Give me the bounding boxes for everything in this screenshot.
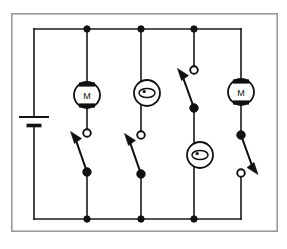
junction-bottom-branch-1	[84, 216, 90, 222]
indicator-lamp-2-lens-dot	[196, 152, 199, 155]
switch-4-terminal[interactable]	[237, 169, 245, 177]
branch-3-switch-lamp	[178, 29, 214, 219]
switch-4-pivot[interactable]	[237, 131, 245, 139]
indicator-lamp-1-lens-dot	[143, 90, 146, 93]
junction-bottom-branch-3	[191, 216, 197, 222]
switch-4-lever[interactable]	[241, 135, 253, 167]
switch-3[interactable]	[178, 66, 199, 112]
switch-2-pivot[interactable]	[137, 170, 145, 178]
switch-2[interactable]	[125, 131, 146, 178]
circuit-diagram: M	[0, 0, 287, 249]
indicator-lamp-2-lens	[192, 150, 208, 159]
switch-3-terminal[interactable]	[190, 66, 198, 74]
branch-4-motor-switch: M	[228, 29, 258, 219]
schematic-canvas: M	[0, 0, 287, 249]
indicator-lamp-2	[187, 142, 213, 168]
junction-top-branch-3	[191, 26, 197, 32]
switch-2-lever-arrowhead[interactable]	[125, 134, 136, 146]
switch-3-lever-arrowhead[interactable]	[178, 69, 189, 81]
switch-3-pivot[interactable]	[190, 104, 198, 112]
battery-symbol	[19, 117, 49, 126]
indicator-lamp-1-lens	[139, 88, 155, 97]
switch-1-pivot[interactable]	[83, 168, 91, 176]
branch-1-motor-switch: M	[71, 29, 101, 219]
switch-4-lever-arrowhead[interactable]	[247, 163, 258, 175]
motor-1-label: M	[83, 91, 91, 101]
switch-1-lever[interactable]	[76, 139, 88, 172]
motor-2: M	[228, 79, 254, 105]
diagram-border	[12, 14, 277, 231]
junction-bottom-branch-2	[138, 216, 144, 222]
motor-1: M	[74, 82, 100, 108]
motor-2-label: M	[237, 88, 245, 98]
branch-2-lamp-switch	[125, 29, 161, 219]
switch-2-lever[interactable]	[130, 141, 142, 174]
switch-3-lever[interactable]	[183, 76, 195, 108]
switch-1[interactable]	[71, 129, 92, 176]
switch-2-terminal[interactable]	[137, 131, 145, 139]
switch-1-terminal[interactable]	[83, 129, 91, 137]
switch-1-lever-arrowhead[interactable]	[71, 132, 82, 144]
junction-top-branch-1	[84, 26, 90, 32]
junction-top-branch-2	[138, 26, 144, 32]
circuit-wiring	[34, 29, 241, 219]
indicator-lamp-1	[134, 80, 160, 106]
switch-4[interactable]	[237, 131, 258, 177]
